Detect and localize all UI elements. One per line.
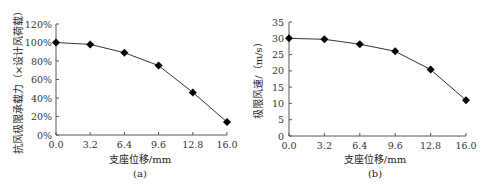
y-tick-label: 100% — [25, 37, 52, 48]
x-tick-label: 0.0 — [281, 140, 296, 151]
data-point-marker — [86, 40, 94, 48]
y-tick-label: 60% — [31, 74, 52, 85]
x-tick-label: 0.0 — [48, 139, 63, 150]
x-tick-label: 6.4 — [352, 140, 367, 151]
x-tick-label: 12.8 — [420, 140, 441, 151]
chart-b: 0 5 10 15 20 25 30 35 0.0 3.2 6.4 9.6 12… — [252, 17, 477, 180]
x-tick-label: 16.0 — [216, 139, 237, 150]
y-tick-label: 15 — [272, 82, 284, 93]
chart-b-caption: (b) — [368, 168, 382, 179]
y-tick-label: 30 — [272, 33, 284, 44]
x-tick-label: 9.6 — [388, 140, 403, 151]
chart-a-x-axis-title: 支座位移/mm — [109, 153, 172, 165]
chart-b-markers — [285, 34, 470, 104]
x-tick-label: 12.8 — [182, 139, 203, 150]
x-tick-label: 9.6 — [151, 139, 166, 150]
chart-a: 0% 20% 40% 60% 80% 100% 120% 0.0 3.2 6.4… — [12, 6, 238, 179]
y-tick-label: 20 — [272, 65, 284, 76]
chart-b-series-line — [289, 38, 466, 100]
chart-a-y-tick-labels: 0% 20% 40% 60% 80% 100% 120% — [25, 19, 52, 141]
chart-a-x-tick-labels: 0.0 3.2 6.4 9.6 12.8 16.0 — [48, 139, 237, 150]
x-tick-label: 3.2 — [83, 139, 98, 150]
y-tick-label: 25 — [272, 49, 284, 60]
y-tick-label: 40% — [31, 93, 52, 104]
x-tick-label: 6.4 — [117, 139, 132, 150]
y-tick-label: 120% — [25, 19, 52, 30]
y-tick-label: 20% — [31, 111, 52, 122]
x-tick-label: 16.0 — [455, 140, 476, 151]
x-tick-label: 3.2 — [317, 140, 332, 151]
chart-b-x-axis-title: 支座位移/mm — [344, 153, 407, 165]
y-tick-label: 80% — [31, 56, 52, 67]
chart-a-y-axis-title: 抗风极限承载力（×设计风荷载） — [12, 6, 24, 154]
chart-b-x-tick-labels: 0.0 3.2 6.4 9.6 12.8 16.0 — [281, 140, 476, 151]
y-tick-label: 35 — [272, 17, 284, 28]
data-point-marker — [391, 47, 399, 55]
y-tick-label: 5 — [278, 114, 284, 125]
chart-a-caption: (a) — [133, 168, 147, 179]
chart-a-series-line — [56, 43, 227, 123]
figure: 0% 20% 40% 60% 80% 100% 120% 0.0 3.2 6.4… — [0, 0, 485, 191]
data-point-marker — [356, 40, 364, 48]
chart-b-y-tick-labels: 0 5 10 15 20 25 30 35 — [272, 17, 284, 142]
chart-b-y-axis-title: 极限风速/（m/s） — [252, 37, 264, 118]
chart-a-markers — [52, 39, 231, 127]
data-point-marker — [120, 49, 128, 57]
data-point-marker — [52, 39, 60, 47]
y-tick-label: 10 — [272, 98, 284, 109]
data-point-marker — [320, 35, 328, 43]
data-point-marker — [285, 34, 293, 42]
